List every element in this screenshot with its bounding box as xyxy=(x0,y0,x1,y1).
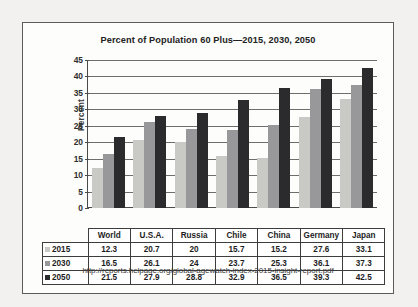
y-tick-label-30: 30 xyxy=(63,104,83,114)
bar-japan-2015 xyxy=(340,99,351,208)
bar-germany-2050 xyxy=(321,79,332,208)
bar-group-russia xyxy=(171,60,212,208)
bar-germany-2015 xyxy=(299,117,310,208)
legend-swatch-2050 xyxy=(45,275,50,280)
bar-japan-2050 xyxy=(362,68,373,208)
y-tick-label-15: 15 xyxy=(63,154,83,164)
bar-world-2050 xyxy=(114,137,125,208)
bar-group-japan xyxy=(336,60,377,208)
y-axis-tick-labels: 454035302520151050 xyxy=(63,60,83,208)
chart-figure-frame: Percent of Population 60 Plus—2015, 2030… xyxy=(22,22,394,294)
y-tick-label-5: 5 xyxy=(63,187,83,197)
source-url-caption: http://reports.helpage.org/global-agewat… xyxy=(23,266,393,275)
bar-russia-2015 xyxy=(175,142,186,208)
bar-u-s-a-2050 xyxy=(155,116,166,208)
y-tickmark-30 xyxy=(85,109,89,110)
cell-2015-russia: 20 xyxy=(173,243,215,257)
y-tick-label-35: 35 xyxy=(63,88,83,98)
bars-layer xyxy=(88,60,377,208)
cell-2015-chile: 15.7 xyxy=(215,243,257,257)
legend-label-2015: 2015 xyxy=(52,245,70,254)
y-tick-label-45: 45 xyxy=(63,55,83,65)
plot-region: Percent 454035302520151050 xyxy=(87,60,377,228)
legend-item-2015: 2015 xyxy=(43,243,89,257)
bar-russia-2050 xyxy=(197,113,208,208)
table-header-row: WorldU.S.A.RussiaChileChinaGermanyJapan xyxy=(43,229,385,243)
y-tickmark-40 xyxy=(85,76,89,77)
y-tickmark-25 xyxy=(85,126,89,127)
cell-2015-germany: 27.6 xyxy=(300,243,342,257)
y-tickmark-20 xyxy=(85,142,89,143)
column-header-chile: Chile xyxy=(215,229,257,243)
column-header-u-s-a: U.S.A. xyxy=(130,229,172,243)
bar-china-2030 xyxy=(268,125,279,208)
bar-world-2030 xyxy=(103,154,114,208)
bar-china-2050 xyxy=(279,88,290,208)
bar-chile-2050 xyxy=(238,100,249,208)
bar-chile-2030 xyxy=(227,130,238,208)
data-table: WorldU.S.A.RussiaChileChinaGermanyJapan2… xyxy=(42,228,385,285)
y-tickmark-5 xyxy=(85,192,89,193)
y-tickmark-0 xyxy=(85,208,89,209)
cell-2015-world: 12.3 xyxy=(88,243,130,257)
bar-japan-2030 xyxy=(351,85,362,208)
table-row: 201512.320.72015.715.227.633.1 xyxy=(43,243,385,257)
bar-group-world xyxy=(88,60,129,208)
bar-u-s-a-2015 xyxy=(133,140,144,208)
bar-group-germany xyxy=(294,60,335,208)
y-tick-label-25: 25 xyxy=(63,121,83,131)
chart-title: Percent of Population 60 Plus—2015, 2030… xyxy=(23,35,393,45)
bar-china-2015 xyxy=(257,158,268,208)
legend-swatch-2015 xyxy=(45,247,50,252)
y-tickmark-35 xyxy=(85,93,89,94)
bar-world-2015 xyxy=(92,168,103,208)
cell-2015-japan: 33.1 xyxy=(343,243,385,257)
legend-swatch-2030 xyxy=(45,261,50,266)
bar-chile-2015 xyxy=(216,156,227,208)
column-header-russia: Russia xyxy=(173,229,215,243)
cell-2015-china: 15.2 xyxy=(258,243,300,257)
plot-area xyxy=(87,60,377,208)
bar-russia-2030 xyxy=(186,129,197,208)
y-tickmark-45 xyxy=(85,60,89,61)
y-tick-label-40: 40 xyxy=(63,71,83,81)
bar-germany-2030 xyxy=(310,89,321,208)
bar-group-china xyxy=(253,60,294,208)
bar-u-s-a-2030 xyxy=(144,122,155,208)
column-header-japan: Japan xyxy=(343,229,385,243)
bar-group-chile xyxy=(212,60,253,208)
column-header-china: China xyxy=(258,229,300,243)
y-tick-label-10: 10 xyxy=(63,170,83,180)
table-corner-cell xyxy=(43,229,89,243)
bar-group-u-s-a xyxy=(129,60,170,208)
y-tick-label-0: 0 xyxy=(63,203,83,213)
y-tickmark-10 xyxy=(85,175,89,176)
y-tick-label-20: 20 xyxy=(63,137,83,147)
cell-2015-u-s-a: 20.7 xyxy=(130,243,172,257)
column-header-germany: Germany xyxy=(300,229,342,243)
column-header-world: World xyxy=(88,229,130,243)
y-tickmark-15 xyxy=(85,159,89,160)
